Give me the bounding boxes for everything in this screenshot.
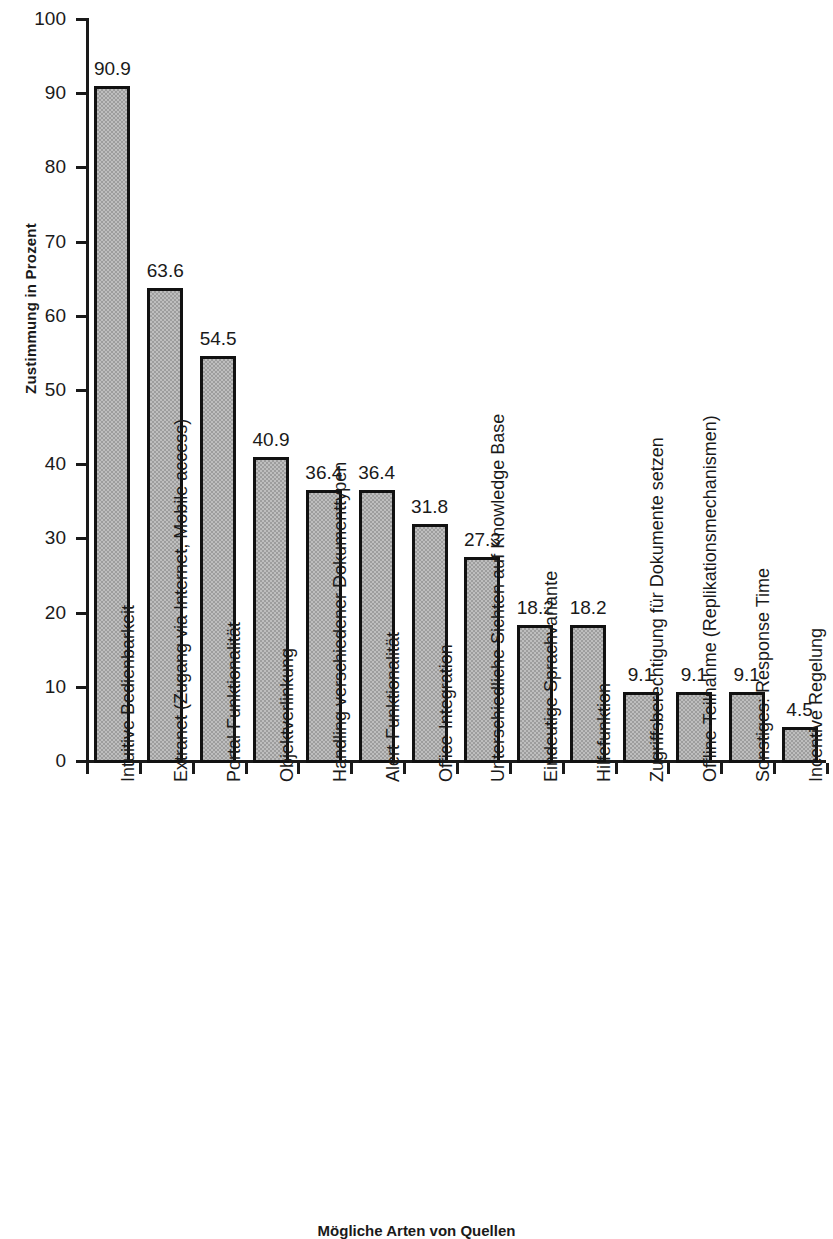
- bar-value-label: 54.5: [178, 329, 258, 348]
- x-axis-title: Mögliche Arten von Quellen: [0, 1222, 833, 1239]
- x-axis-tick-mark: [403, 763, 406, 774]
- bar-value-label: 36.4: [337, 463, 417, 482]
- x-axis-tick-mark: [86, 763, 89, 774]
- y-axis-tick-mark: [76, 18, 86, 21]
- y-axis-tick-mark: [76, 537, 86, 540]
- x-axis-category-label: Alert-Funktionalität: [384, 632, 402, 782]
- bar-value-label: 90.9: [72, 59, 152, 78]
- bar-value-label: 27.3: [442, 530, 522, 549]
- x-axis-tick-mark: [773, 763, 776, 774]
- x-axis-category-label: Hilfefunktion: [595, 683, 613, 782]
- x-axis-category-label: Zugriffsberechtigung für Dokumente setze…: [648, 437, 666, 782]
- bar-value-label: 9.1: [707, 665, 787, 684]
- x-axis-tick-mark: [245, 763, 248, 774]
- y-axis-line: [86, 18, 89, 763]
- x-axis-category-label: Handling verschiedener Dokumenttypen: [331, 462, 349, 782]
- x-axis-tick-mark: [139, 763, 142, 774]
- x-axis-tick-mark: [192, 763, 195, 774]
- x-axis-category-label: Sonstiges: Response Time: [754, 568, 772, 782]
- x-axis-tick-mark: [297, 763, 300, 774]
- x-axis-category-label: Intuitive Bedienbarkeit: [119, 605, 137, 782]
- x-axis-category-label: Portal-Funktionalität: [225, 622, 243, 782]
- x-axis-tick-mark: [615, 763, 618, 774]
- y-axis-tick-mark: [76, 463, 86, 466]
- x-axis-tick-mark: [826, 763, 829, 774]
- x-axis-tick-mark: [509, 763, 512, 774]
- bar-value-label: 18.2: [548, 598, 628, 617]
- x-axis-category-label: Incentive Regelung: [807, 628, 825, 782]
- x-axis-tick-mark: [720, 763, 723, 774]
- y-axis-tick-mark: [76, 92, 86, 95]
- bar-value-label: 31.8: [390, 497, 470, 516]
- x-axis-tick-mark: [456, 763, 459, 774]
- y-axis-tick-mark: [76, 241, 86, 244]
- y-axis-tick-mark: [76, 166, 86, 169]
- bar-value-label: 63.6: [125, 261, 205, 280]
- x-axis-tick-mark: [667, 763, 670, 774]
- x-axis-category-label: Office-Integration: [437, 644, 455, 782]
- x-axis-tick-mark: [350, 763, 353, 774]
- y-axis-tick-mark: [76, 686, 86, 689]
- x-axis-category-label: Objektverlinkung: [278, 648, 296, 782]
- x-axis-category-label: Offline-Teilnahme (Replikationsmechanism…: [701, 415, 719, 782]
- y-axis-tick-mark: [76, 760, 86, 763]
- x-axis-tick-mark: [562, 763, 565, 774]
- y-axis-tick-mark: [76, 315, 86, 318]
- y-axis-tick-mark: [76, 612, 86, 615]
- y-axis-tick-mark: [76, 389, 86, 392]
- bar-value-label: 40.9: [231, 430, 311, 449]
- x-axis-category-label: Extranet (Zugang via Internet, Mobile ac…: [172, 419, 190, 782]
